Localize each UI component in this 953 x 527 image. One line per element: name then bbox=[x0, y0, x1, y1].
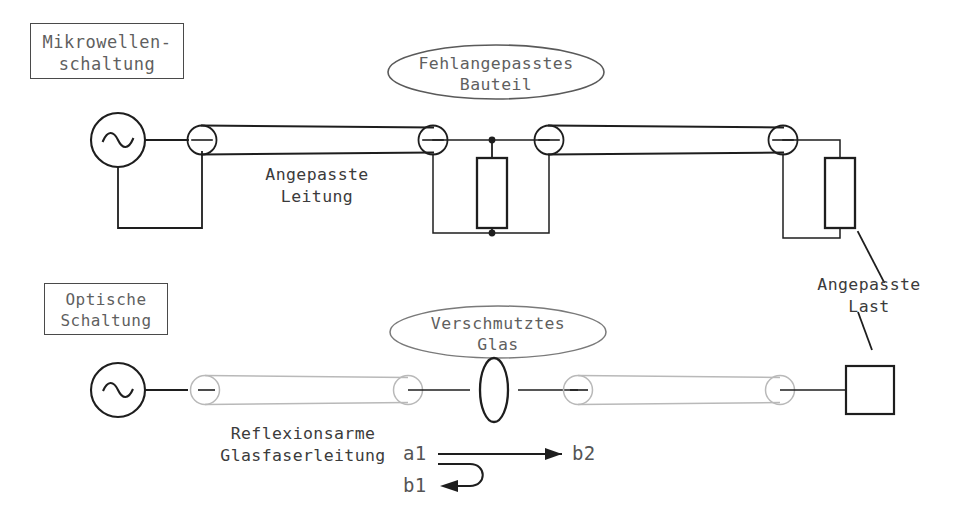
arrow-left-icon-shaft bbox=[438, 464, 483, 486]
fiber2-top-wall bbox=[578, 376, 780, 378]
lens-icon bbox=[480, 358, 508, 422]
detector-leader-line bbox=[858, 312, 872, 350]
fiber1-bottom-wall bbox=[205, 403, 408, 405]
load-resistor-icon bbox=[825, 158, 855, 228]
port-label-b1: b1 bbox=[403, 473, 426, 498]
arrow-right-icon-head bbox=[545, 448, 562, 460]
load-bottom-rail bbox=[783, 155, 840, 239]
junction-dot-bottom bbox=[489, 230, 496, 237]
fiber2-bottom-wall bbox=[578, 403, 780, 405]
optical-section-label: Optische Schaltung bbox=[44, 283, 168, 335]
matched-line-label: Angepasste Leitung bbox=[232, 164, 402, 208]
arrow-left-icon-head bbox=[440, 480, 458, 492]
junction-dot-top bbox=[489, 137, 496, 144]
low-reflection-fiber-label: Reflexionsarme Glasfaserleitung bbox=[192, 423, 414, 467]
microwave-circuit-group bbox=[91, 113, 884, 282]
port-label-b2: b2 bbox=[572, 441, 595, 466]
detector-icon bbox=[846, 366, 894, 414]
dirty-glass-label: Verschmutztes Glas bbox=[388, 313, 608, 356]
port-label-a1: a1 bbox=[403, 441, 426, 466]
waveguide1-bottom-wall bbox=[202, 153, 433, 155]
port-arrow-group bbox=[438, 448, 562, 492]
waveguide2-top-wall bbox=[549, 126, 783, 128]
shunt-bottom-rail bbox=[433, 155, 549, 234]
sine-wave-icon bbox=[103, 133, 133, 147]
waveguide1-top-wall bbox=[202, 126, 433, 128]
microwave-section-label: Mikrowellen- schaltung bbox=[30, 23, 184, 79]
waveguide2-bottom-wall bbox=[549, 153, 783, 155]
diagram-canvas: Mikrowellen- schaltung Optische Schaltun… bbox=[0, 0, 953, 527]
mismatched-part-label: Fehlangepasstes Bauteil bbox=[386, 53, 606, 96]
load-top-rail bbox=[783, 140, 840, 158]
fiber1-top-wall bbox=[205, 376, 408, 378]
resistor-icon bbox=[477, 158, 507, 228]
optical-sine-wave-icon bbox=[103, 383, 133, 397]
matched-load-label: Angepasste Last bbox=[795, 274, 943, 318]
